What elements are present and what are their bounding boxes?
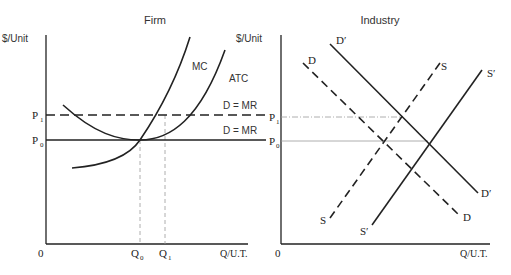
svg-text:P: P [269, 111, 275, 123]
s-prime-curve [372, 70, 482, 225]
svg-text:1: 1 [168, 254, 172, 262]
svg-text:P: P [32, 134, 38, 146]
mc-curve [72, 37, 190, 168]
firm-y-axis-label: $/Unit [2, 33, 28, 44]
d-prime-curve [330, 44, 478, 193]
industry-origin-label: 0 [275, 247, 281, 259]
d-prime-bottom-label: D′ [481, 187, 491, 199]
industry-title: Industry [360, 14, 400, 26]
svg-text:0: 0 [276, 142, 280, 150]
svg-text:0: 0 [40, 141, 44, 149]
svg-text:0: 0 [140, 254, 144, 262]
d-bottom-label: D [463, 211, 471, 223]
industry-panel: Industry $/Unit P 1 P 0 D′ D S S′ D′ D [236, 14, 496, 259]
d-curve [303, 63, 460, 216]
firm-panel: Firm $/Unit MC ATC D = MR D = MR P 1 P 0 [2, 14, 268, 262]
svg-text:1: 1 [276, 118, 280, 126]
firm-p0-label: P 0 [32, 134, 44, 149]
q1-label: Q 1 [159, 247, 172, 262]
mc-label: MC [192, 61, 208, 72]
svg-text:P: P [269, 135, 275, 147]
industry-y-axis-label: $/Unit [236, 33, 262, 44]
s-bottom-label: S [320, 214, 326, 226]
industry-x-axis-label: Q/U.T. [460, 248, 488, 259]
s-prime-bottom-label: S′ [360, 225, 369, 237]
svg-text:Q: Q [159, 247, 167, 259]
industry-p1-label: P 1 [269, 111, 280, 126]
firm-x-axis-label: Q/U.T. [220, 248, 248, 259]
q0-label: Q 0 [131, 247, 144, 262]
svg-text:Q: Q [131, 247, 139, 259]
firm-origin-label: 0 [38, 247, 44, 259]
s-curve [330, 63, 440, 218]
s-top-label: S [441, 60, 447, 72]
s-prime-top-label: S′ [487, 67, 496, 79]
atc-label: ATC [229, 73, 248, 84]
firm-industry-diagram: Firm $/Unit MC ATC D = MR D = MR P 1 P 0 [0, 0, 511, 275]
dmr-upper-label: D = MR [223, 100, 257, 111]
svg-text:P: P [32, 109, 38, 121]
svg-text:1: 1 [40, 116, 44, 124]
industry-p0-label: P 0 [269, 135, 280, 150]
d-top-label: D [308, 54, 316, 66]
dmr-lower-label: D = MR [223, 125, 257, 136]
d-prime-top-label: D′ [336, 34, 346, 46]
firm-title: Firm [144, 14, 166, 26]
firm-p1-label: P 1 [32, 109, 44, 124]
